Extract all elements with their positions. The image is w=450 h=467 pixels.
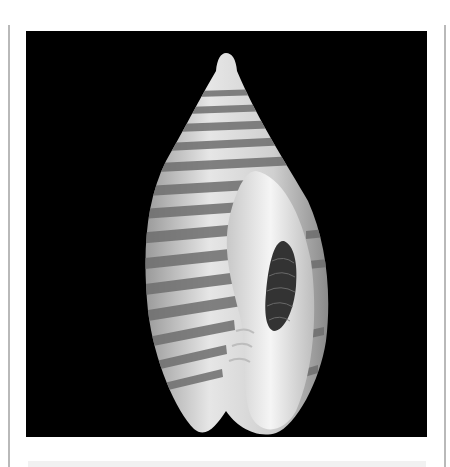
bottom-band bbox=[28, 461, 426, 467]
right-divider bbox=[444, 25, 446, 467]
shell-illustration bbox=[26, 31, 427, 437]
shell-photo bbox=[26, 31, 427, 437]
left-divider bbox=[8, 25, 10, 467]
